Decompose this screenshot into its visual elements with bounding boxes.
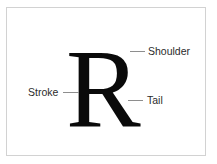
callout-label-tail: Tail [147, 94, 163, 106]
shoulder-leader-line [130, 51, 145, 52]
capital-r-specimen: R [66, 28, 142, 148]
letterform-anatomy-diagram: R Shoulder Stroke Tail [0, 0, 217, 164]
callout-label-stroke: Stroke [28, 86, 58, 98]
callout-label-shoulder: Shoulder [148, 45, 190, 57]
stroke-leader-line [63, 92, 79, 93]
tail-leader-line [128, 100, 143, 101]
